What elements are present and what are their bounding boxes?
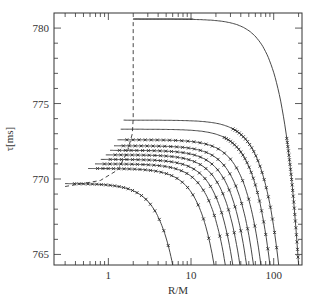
curves <box>65 19 299 265</box>
cross-marker <box>191 193 194 196</box>
x-tick-label: 10 <box>186 269 198 281</box>
cross-marker <box>210 163 213 166</box>
cross-marker <box>185 172 188 175</box>
cross-marker <box>136 191 139 194</box>
cross-marker <box>202 189 205 192</box>
cross-marker <box>192 168 195 171</box>
cross-marker <box>186 186 189 189</box>
y-tick-labels: 765770775780 <box>33 22 50 260</box>
cross-marker <box>181 181 184 184</box>
cross-marker <box>222 177 225 180</box>
cross-marker <box>239 151 242 154</box>
y-tick-label: 775 <box>33 98 50 110</box>
cross-marker <box>217 147 220 150</box>
cross-marker <box>246 140 249 143</box>
cross-marker <box>211 154 214 157</box>
cross-marker <box>191 176 194 179</box>
cross-marker <box>209 185 212 188</box>
x-tick-labels: 110100 <box>106 269 283 281</box>
cross-marker <box>216 181 219 184</box>
cross-marker <box>228 172 231 175</box>
y-axis-label: τ[ms] <box>3 127 15 152</box>
cross-marker <box>210 173 213 176</box>
chart: 110100 765770775780 R/M τ[ms] <box>0 0 311 304</box>
cross-marker <box>252 150 255 153</box>
cross-marker <box>250 146 253 149</box>
cross-marker <box>196 181 199 184</box>
y-tick-label: 765 <box>33 248 50 260</box>
cross-marker <box>237 148 240 151</box>
cross-marker <box>205 158 208 161</box>
cross-marker <box>176 177 179 180</box>
cross-marker <box>229 158 232 161</box>
cross-marker <box>144 198 147 201</box>
y-tick-label: 770 <box>33 173 50 185</box>
x-axis-label: R/M <box>168 284 188 296</box>
cross-marker <box>153 209 156 212</box>
cross-marker <box>241 154 244 157</box>
cross-marker <box>223 152 226 155</box>
cross-marker <box>235 166 238 169</box>
cross-marker <box>140 194 143 197</box>
curve-line <box>106 155 240 265</box>
curve-line <box>88 169 214 266</box>
cross-marker <box>204 167 207 170</box>
cross-markers <box>73 127 299 258</box>
cross-marker <box>248 143 251 146</box>
cross-marker <box>246 161 249 164</box>
cross-marker <box>243 157 246 160</box>
dashed-boundary-line <box>65 19 133 187</box>
cross-marker <box>199 163 202 166</box>
x-tick-label: 1 <box>106 269 112 281</box>
cross-marker <box>203 177 206 180</box>
cross-marker <box>222 164 225 167</box>
cross-marker <box>149 203 152 206</box>
cross-marker <box>216 168 219 171</box>
cross-marker <box>217 158 220 161</box>
x-tick-label: 100 <box>265 269 282 281</box>
cross-marker <box>198 171 201 174</box>
y-tick-label: 780 <box>33 22 50 34</box>
curve-line <box>65 184 173 265</box>
